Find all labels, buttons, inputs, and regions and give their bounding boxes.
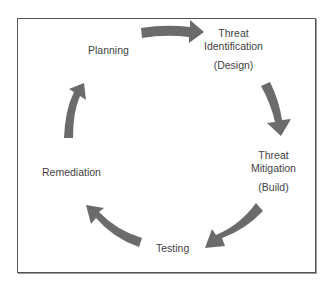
arrow-planning-to-threat-identification xyxy=(141,20,204,43)
stage-label: Threat xyxy=(204,27,263,40)
stage-sublabel: (Design) xyxy=(204,59,263,72)
stage-label: Testing xyxy=(156,242,189,255)
stage-label: Threat xyxy=(251,149,296,162)
stage-testing: Testing xyxy=(156,242,189,255)
stage-sublabel: (Build) xyxy=(251,181,296,194)
arrow-threat-identification-to-threat-mitigation xyxy=(261,82,291,136)
stage-label: Remediation xyxy=(42,166,101,179)
arrow-remediation-to-planning xyxy=(64,83,86,138)
arrow-threat-mitigation-to-testing xyxy=(205,203,263,248)
stage-remediation: Remediation xyxy=(42,166,101,179)
stage-label: Mitigation xyxy=(251,162,296,175)
stage-label: Planning xyxy=(88,44,129,57)
arrow-testing-to-remediation xyxy=(86,205,142,247)
stage-planning: Planning xyxy=(88,44,129,57)
stage-threat-mitigation: Threat Mitigation (Build) xyxy=(251,149,296,194)
stage-label: Identification xyxy=(204,40,263,53)
stage-threat-identification: Threat Identification (Design) xyxy=(204,27,263,72)
